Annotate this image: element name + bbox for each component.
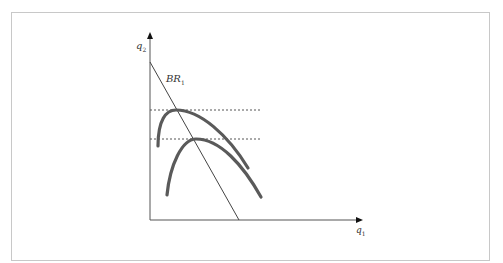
x-axis-label: q1 [356, 225, 366, 237]
reaction-function-diagram [0, 0, 503, 263]
y-axis-arrow-icon [147, 32, 153, 39]
br-label: BR1 [166, 73, 185, 86]
best-response-line [150, 62, 239, 220]
x-axis-arrow-icon [356, 217, 363, 223]
y-axis-label: q2 [136, 40, 146, 53]
